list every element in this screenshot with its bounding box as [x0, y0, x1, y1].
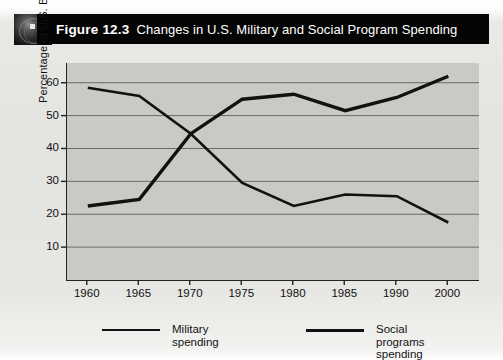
figure-container: Figure 12.3Changes in U.S. Military and …	[0, 0, 503, 360]
x-tick-label: 1980	[270, 287, 316, 299]
y-tick-label: 30	[29, 174, 59, 186]
chart-legend: Military spendingSocial programsspending	[0, 322, 503, 356]
series-line-military	[88, 88, 449, 223]
x-tick-label: 1960	[64, 287, 110, 299]
x-tick-label: 1985	[321, 287, 367, 299]
y-tick-label: 10	[29, 240, 59, 252]
legend-label: Military spending	[172, 323, 219, 348]
x-tick-label: 1970	[167, 287, 213, 299]
legend-label: Social programsspending	[376, 323, 425, 360]
chart-svg	[67, 63, 479, 280]
legend-label-line1: Social programs	[376, 323, 425, 348]
globe-highlight	[30, 24, 35, 29]
legend-line-swatch	[306, 329, 364, 332]
legend-label-line2: spending	[376, 348, 425, 360]
plot-area: Percentage of U.S. Budget	[66, 63, 479, 281]
y-tick-label: 20	[29, 207, 59, 219]
figure-number: Figure 12.3	[56, 22, 129, 37]
x-tick-label: 2000	[424, 287, 470, 299]
series-lines	[88, 76, 449, 222]
figure-title-row: Figure 12.3Changes in U.S. Military and …	[56, 20, 457, 40]
figure-title: Changes in U.S. Military and Social Prog…	[136, 22, 457, 37]
series-line-social-programs	[88, 76, 449, 206]
x-tick-label: 1990	[373, 287, 419, 299]
gridlines	[67, 83, 479, 247]
legend-line-swatch	[102, 329, 160, 331]
y-tick-label: 40	[29, 141, 59, 153]
x-tick-label: 1965	[115, 287, 161, 299]
y-tick-label: 50	[29, 109, 59, 121]
y-tick-label: 60	[29, 76, 59, 88]
x-tick-label: 1975	[218, 287, 264, 299]
